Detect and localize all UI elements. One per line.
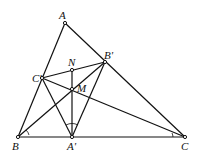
point-B [16, 135, 19, 138]
segment-ApBp [72, 62, 105, 137]
label-C: C [181, 140, 189, 152]
labels: A B' N C' M B A' C [12, 9, 189, 152]
label-Cp: C' [32, 72, 42, 84]
label-N: N [67, 56, 76, 68]
angle-marks [26, 124, 173, 137]
label-B: B [12, 140, 19, 152]
point-Ap [70, 135, 73, 138]
label-Bp: B' [104, 49, 114, 61]
point-C [183, 135, 186, 138]
segment-ApCp [42, 78, 72, 137]
label-Ap: A' [66, 140, 77, 152]
angle-mark-B [26, 130, 29, 135]
points [16, 21, 186, 138]
label-M: M [76, 82, 87, 94]
geometry-diagram: A B' N C' M B A' C [0, 0, 200, 163]
point-M [70, 87, 73, 90]
segments [18, 23, 185, 137]
segment-CCp [42, 78, 185, 137]
point-A [63, 21, 66, 24]
label-A: A [58, 9, 66, 21]
point-N [70, 68, 73, 71]
segment-AC [65, 23, 185, 137]
